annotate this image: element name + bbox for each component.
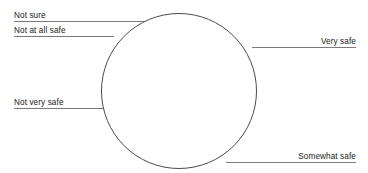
- pie-label-not-at-all-safe: Not at all safe: [14, 26, 66, 36]
- pie-chart-figure: Not sure Not at all safe Very safe Not v…: [0, 0, 368, 173]
- pie-label-not-very-safe: Not very safe: [14, 98, 64, 108]
- pie-label-somewhat-safe: Somewhat safe: [298, 152, 356, 162]
- pie-label-very-safe: Very safe: [321, 37, 356, 47]
- pie-circle-outline: [102, 14, 257, 169]
- pie-label-not-sure: Not sure: [14, 11, 46, 21]
